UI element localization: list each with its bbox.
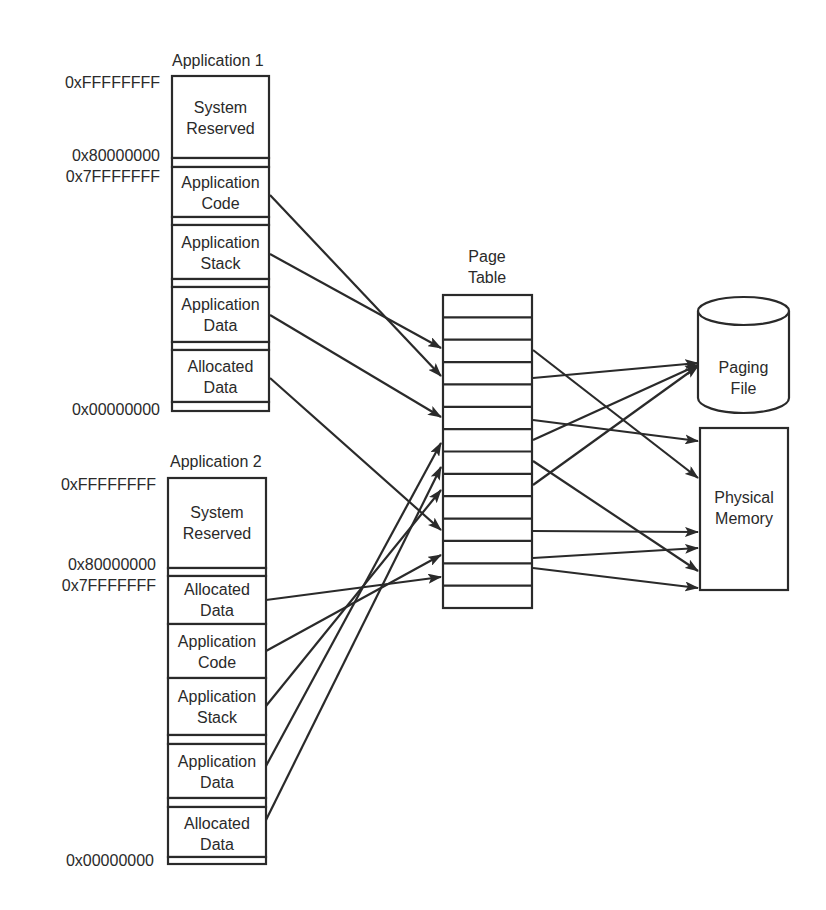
app2-spacer [168, 735, 266, 744]
arrow-pt-to-paging-file [533, 366, 698, 485]
app1-address-top: 0xFFFFFFFF [65, 74, 160, 91]
app1-address-0x80000000: 0x80000000 [72, 147, 160, 164]
svg-text:Data: Data [200, 602, 234, 619]
app2-segment-system-reserved: System Reserved [168, 478, 266, 568]
arrow-pt-to-physical [533, 420, 698, 441]
paging-file-label-line1: Paging [719, 359, 769, 376]
app1-spacer [172, 158, 269, 167]
svg-text:Reserved: Reserved [186, 120, 254, 137]
app2-spacer [168, 798, 266, 807]
svg-text:Data: Data [204, 317, 238, 334]
svg-text:Stack: Stack [197, 709, 238, 726]
app2-address-top: 0xFFFFFFFF [61, 476, 156, 493]
arrow-pt-to-physical [533, 461, 698, 571]
svg-text:Code: Code [201, 195, 239, 212]
svg-text:Application: Application [178, 688, 256, 705]
app2-segment-allocated-data-upper: Allocated Data [168, 576, 266, 624]
svg-text:System: System [194, 99, 247, 116]
svg-text:Application: Application [181, 296, 259, 313]
virtual-memory-diagram: Application 1 0xFFFFFFFF 0x80000000 0x7F… [0, 0, 826, 910]
svg-text:Reserved: Reserved [183, 525, 251, 542]
svg-text:Application: Application [181, 234, 259, 251]
application-2-address-space: Application 2 0xFFFFFFFF 0x80000000 0x7F… [61, 453, 266, 869]
svg-text:Data: Data [200, 774, 234, 791]
svg-text:Code: Code [198, 654, 236, 671]
app1-segment-application-data: Application Data [172, 287, 269, 342]
app1-spacer [172, 279, 269, 287]
app2-address-0x7fffffff: 0x7FFFFFFF [62, 577, 156, 594]
app2-address-bottom: 0x00000000 [66, 852, 154, 869]
app1-spacer [172, 217, 269, 225]
arrow-app2-data [266, 443, 441, 766]
paging-file-label-line2: File [731, 380, 757, 397]
app1-segment-application-code: Application Code [172, 167, 269, 217]
arrow-pt-to-physical [533, 350, 698, 478]
app1-mapping-arrows [270, 195, 441, 530]
app1-spacer [172, 402, 269, 411]
svg-text:Data: Data [200, 836, 234, 853]
paging-file-cylinder: Paging File [698, 297, 789, 413]
arrow-app2-allocated-lower [266, 467, 441, 820]
application-1-title: Application 1 [172, 52, 264, 69]
app1-address-0x7fffffff: 0x7FFFFFFF [66, 168, 160, 185]
arrow-app1-code [270, 195, 441, 376]
svg-text:Allocated: Allocated [188, 358, 254, 375]
arrow-app1-stack [270, 254, 441, 348]
svg-text:System: System [190, 504, 243, 521]
svg-text:Allocated: Allocated [184, 815, 250, 832]
app1-address-bottom: 0x00000000 [72, 401, 160, 418]
page-table-title-line2: Table [468, 269, 506, 286]
svg-text:Allocated: Allocated [184, 581, 250, 598]
page-table-output-arrows [533, 350, 698, 588]
page-table-title-line1: Page [468, 248, 505, 265]
app2-segment-application-data: Application Data [168, 744, 266, 798]
arrow-pt-to-physical [533, 531, 698, 532]
arrow-pt-to-physical [533, 568, 698, 588]
app2-spacer [168, 857, 266, 864]
app2-mapping-arrows [266, 443, 441, 820]
svg-text:Application: Application [178, 633, 256, 650]
physical-memory-box: Physical Memory [700, 428, 788, 590]
svg-text:Data: Data [204, 379, 238, 396]
physical-memory-label-line1: Physical [714, 489, 774, 506]
app1-segment-allocated-data: Allocated Data [172, 350, 269, 402]
application-2-title: Application 2 [170, 453, 262, 470]
application-1-address-space: Application 1 0xFFFFFFFF 0x80000000 0x7F… [65, 52, 269, 418]
physical-memory-label-line2: Memory [715, 510, 773, 527]
svg-text:Stack: Stack [200, 255, 241, 272]
svg-text:Application: Application [178, 753, 256, 770]
app2-segment-allocated-data-lower: Allocated Data [168, 807, 266, 857]
app1-segment-system-reserved: System Reserved [172, 76, 269, 158]
arrow-pt-to-physical [533, 548, 698, 558]
app1-segment-application-stack: Application Stack [172, 225, 269, 279]
app2-spacer [168, 568, 266, 576]
svg-text:Application: Application [181, 174, 259, 191]
app1-spacer [172, 342, 269, 350]
app2-segment-application-stack: Application Stack [168, 678, 266, 735]
app2-segment-application-code: Application Code [168, 624, 266, 678]
page-table: Page Table [443, 248, 532, 608]
app2-address-0x80000000: 0x80000000 [68, 556, 156, 573]
